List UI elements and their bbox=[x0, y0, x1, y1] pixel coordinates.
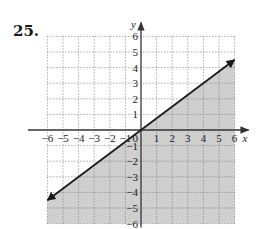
x-axis-label: x bbox=[242, 132, 248, 144]
origin-label: 0 bbox=[133, 132, 139, 144]
y-tick-label: 1 bbox=[133, 108, 139, 120]
y-tick-label: 2 bbox=[133, 93, 139, 105]
x-tick-label: 4 bbox=[201, 132, 207, 144]
y-tick-label: −3 bbox=[126, 171, 138, 183]
y-axis-label: y bbox=[130, 18, 136, 30]
y-tick-label: −5 bbox=[126, 202, 138, 214]
y-tick-label: 4 bbox=[133, 62, 139, 74]
x-tick-label: −4 bbox=[73, 132, 85, 144]
y-tick-label: −2 bbox=[126, 155, 138, 167]
y-tick-label: 6 bbox=[133, 30, 139, 42]
x-tick-label: −3 bbox=[88, 132, 100, 144]
graph-figure: 25. −6−5−4−3−2−1123456−6−5−4−3−2−1123456… bbox=[0, 0, 259, 229]
x-tick-label: 1 bbox=[154, 132, 160, 144]
x-tick-label: −2 bbox=[104, 132, 116, 144]
x-tick-label: −5 bbox=[57, 132, 69, 144]
x-tick-label: 3 bbox=[185, 132, 191, 144]
x-tick-label: 5 bbox=[216, 132, 222, 144]
y-tick-label: −6 bbox=[126, 218, 138, 229]
x-tick-label: −6 bbox=[42, 132, 54, 144]
y-tick-label: 3 bbox=[133, 77, 139, 89]
problem-number: 25. bbox=[13, 22, 39, 40]
y-tick-label: −4 bbox=[126, 186, 138, 198]
x-tick-label: 2 bbox=[169, 132, 175, 144]
x-tick-label: 6 bbox=[232, 132, 238, 144]
y-tick-label: 5 bbox=[133, 46, 139, 58]
